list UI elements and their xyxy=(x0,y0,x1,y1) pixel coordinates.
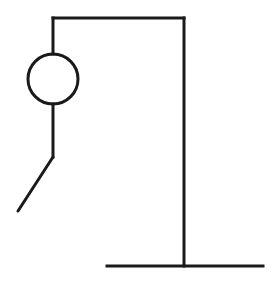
hangman-left-leg xyxy=(18,157,53,211)
hangman-drawing xyxy=(0,0,277,285)
hangman-head xyxy=(28,54,78,104)
